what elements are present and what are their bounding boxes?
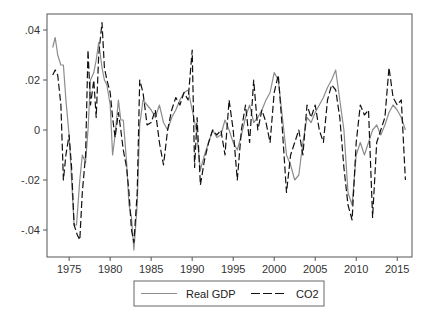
x-tick-label: 1995 <box>221 263 245 275</box>
x-tick-label: 1980 <box>98 263 122 275</box>
line-chart: .04.020-.02-.04 197519801985199019952000… <box>0 0 432 316</box>
x-axis: 197519801985199019952000200520102015 <box>57 257 410 275</box>
x-tick-label: 1985 <box>139 263 163 275</box>
y-tick-label: -.04 <box>21 224 40 236</box>
y-tick-label: .04 <box>25 24 40 36</box>
legend-label-co2: CO2 <box>296 288 319 300</box>
x-tick-label: 2015 <box>385 263 409 275</box>
y-tick-label: 0 <box>34 124 40 136</box>
x-tick-label: 2000 <box>262 263 286 275</box>
legend-label-real-gdp: Real GDP <box>186 288 236 300</box>
x-tick-label: 2005 <box>303 263 327 275</box>
legend: Real GDP CO2 <box>134 281 324 306</box>
y-tick-label: .02 <box>25 74 40 86</box>
x-tick-label: 1990 <box>180 263 204 275</box>
y-tick-label: -.02 <box>21 174 40 186</box>
x-tick-label: 1975 <box>57 263 81 275</box>
x-tick-label: 2010 <box>344 263 368 275</box>
